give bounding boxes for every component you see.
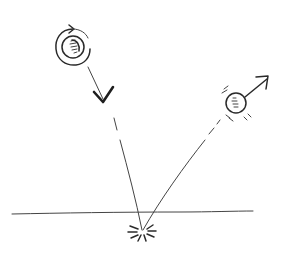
ground-line [12,211,253,214]
impact-burst-icon [128,225,156,241]
incoming-ball [56,25,90,65]
outgoing-arrow-shaft [245,79,267,97]
outgoing-ball [222,76,268,121]
incoming-trajectory [88,67,142,230]
ball-shading [232,98,238,107]
outgoing-trajectory [143,120,220,230]
ball-outgoing [226,93,246,113]
outgoing-path [143,140,205,230]
bounce-diagram [0,0,283,262]
incoming-arrowhead-icon [94,87,113,102]
incoming-path-dashed [114,118,117,130]
